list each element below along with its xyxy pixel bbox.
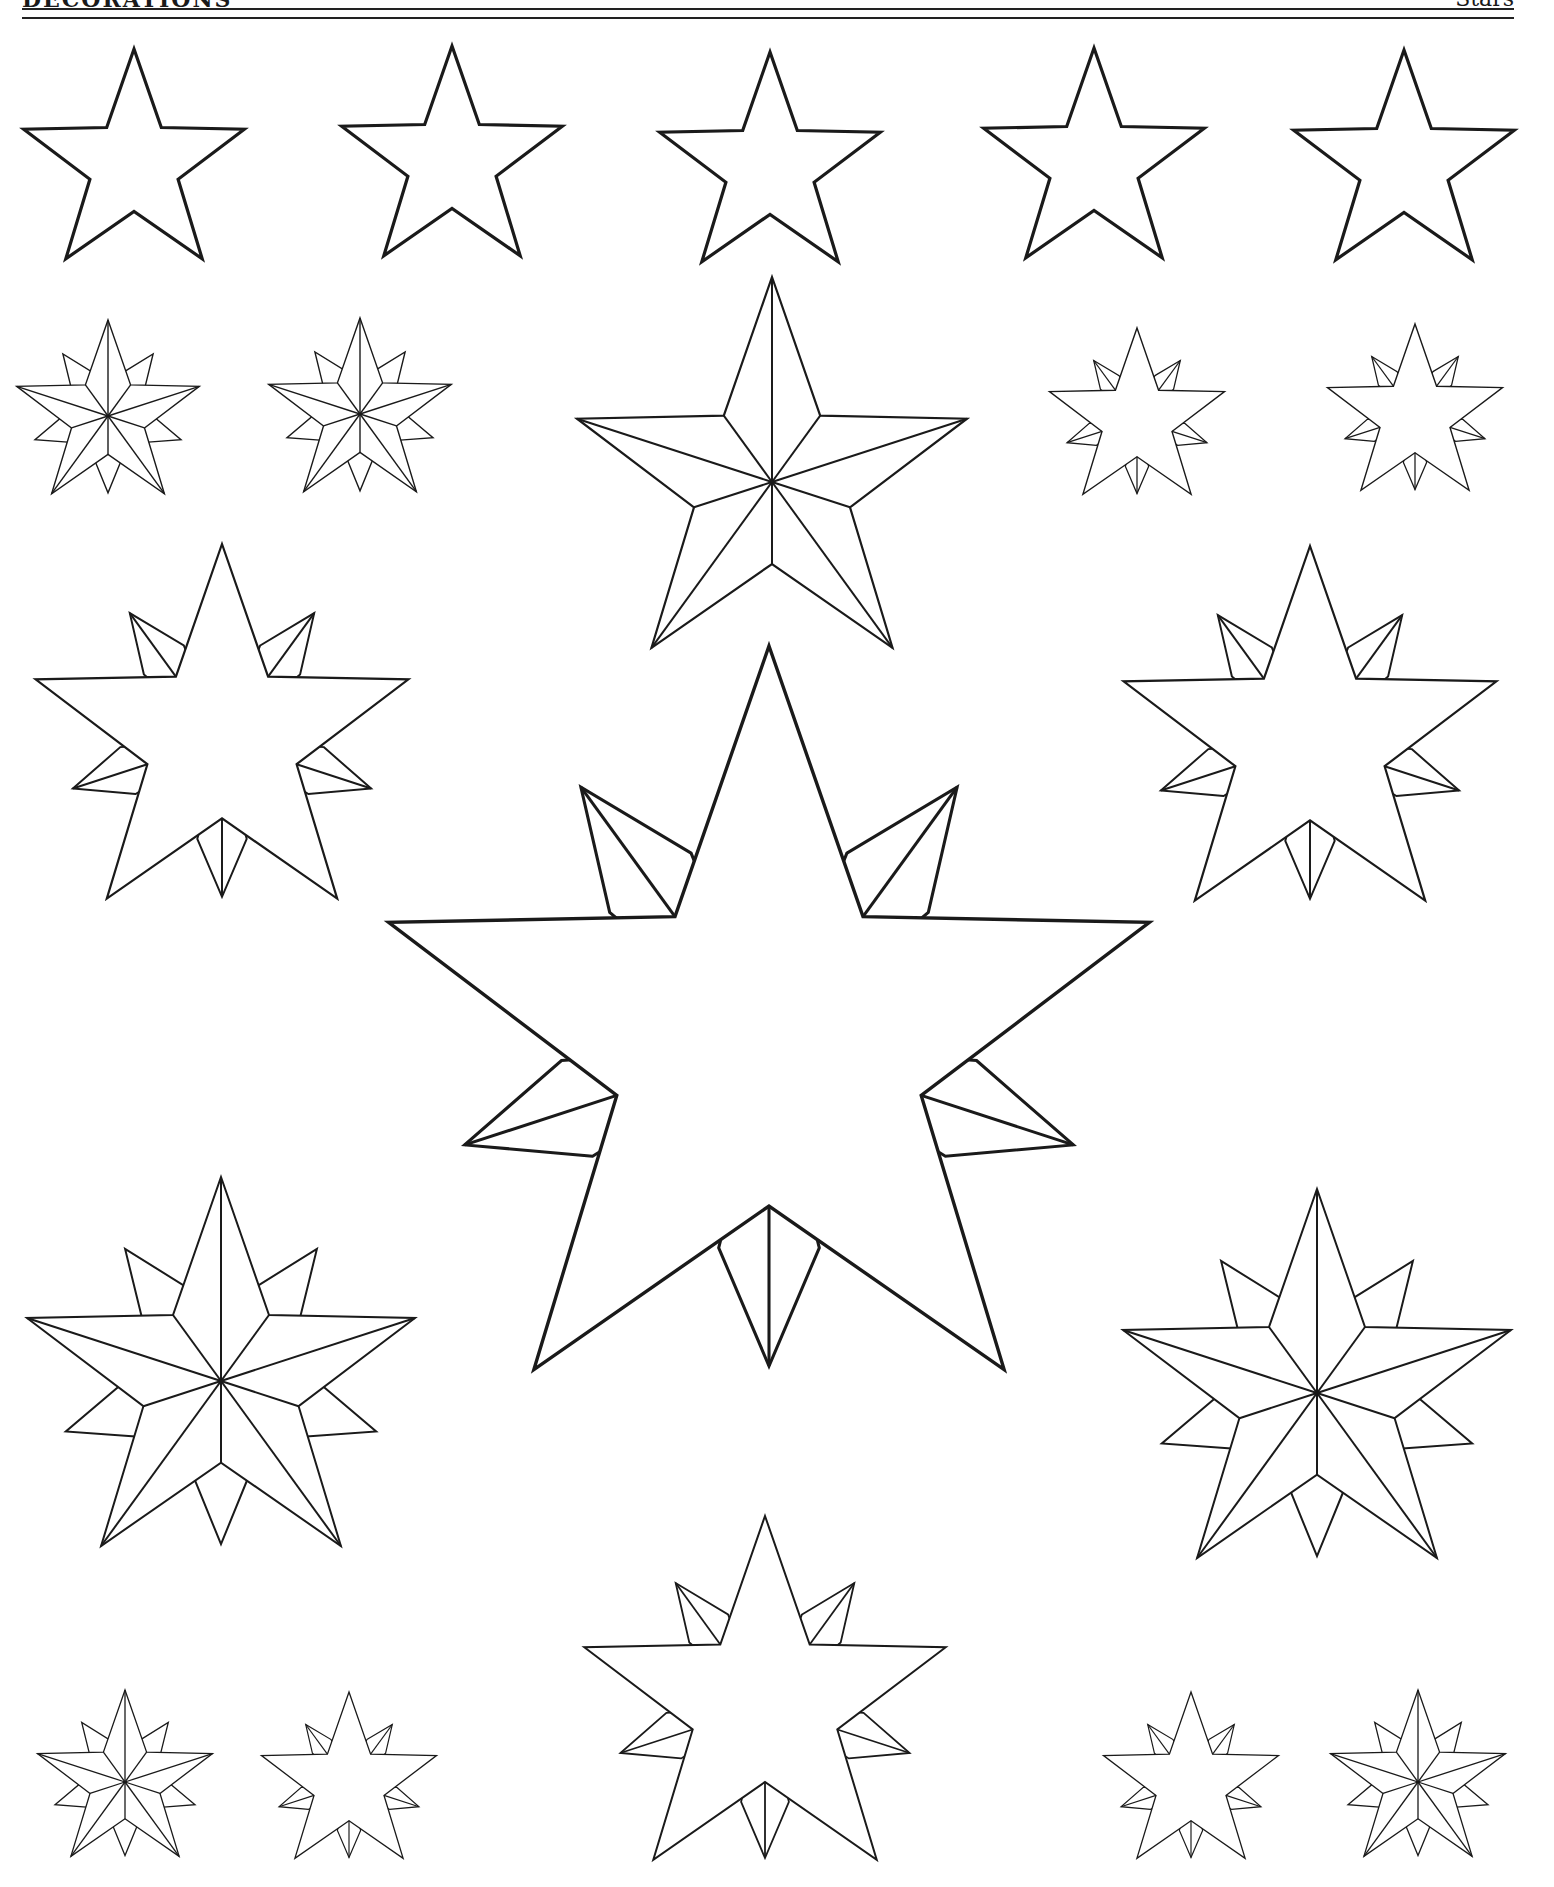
faceted-star-large-icon — [577, 277, 967, 648]
spiked-star-medium-right-icon — [1124, 546, 1497, 901]
spiked-star-tiny-1-icon — [262, 1692, 437, 1858]
spiked-star-center-large-icon — [389, 646, 1150, 1370]
plain-star-4-icon — [984, 48, 1205, 258]
plain-star-2-icon — [342, 46, 563, 256]
compass-star-small-1-icon — [17, 320, 200, 494]
compass-star-medium-right-icon — [1123, 1189, 1511, 1558]
spiked-star-medium-left-icon — [36, 544, 409, 899]
spiked-star-bottom-center-icon — [584, 1516, 945, 1860]
star-sheet — [0, 0, 1554, 1887]
plain-star-1-icon — [24, 49, 245, 259]
compass-star-small-2-icon — [269, 318, 452, 492]
spiked-star-tiny-2-icon — [1104, 1692, 1279, 1858]
compass-star-medium-left-icon — [27, 1177, 415, 1546]
plain-star-5-icon — [1294, 50, 1515, 260]
spiked-star-small-2-icon — [1328, 324, 1503, 490]
compass-star-tiny-1-icon — [38, 1690, 213, 1856]
plain-star-3-icon — [660, 52, 881, 262]
compass-star-tiny-2-icon — [1331, 1690, 1506, 1856]
spiked-star-small-1-icon — [1050, 328, 1225, 494]
